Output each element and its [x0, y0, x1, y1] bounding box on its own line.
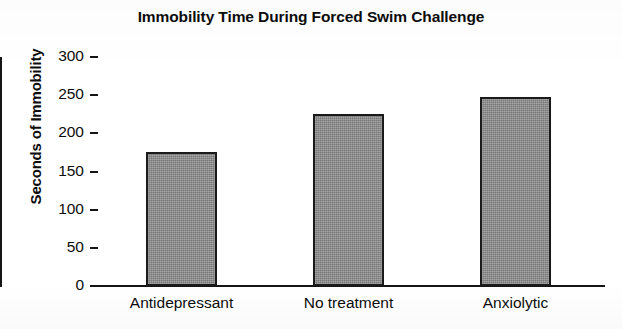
bar-chart-figure: Immobility Time During Forced Swim Chall… — [0, 0, 622, 329]
y-tick-label: 100 — [30, 201, 84, 217]
y-tick-label: 0 — [30, 277, 84, 293]
x-tick-label-antidepressant: Antidepressant — [92, 294, 272, 312]
y-tick-mark — [90, 209, 98, 211]
y-tick-label: 250 — [30, 86, 84, 102]
y-tick-mark — [90, 171, 98, 173]
x-tick-label-no-treatment: No treatment — [259, 294, 439, 312]
bar-no-treatment — [313, 114, 384, 286]
x-tick-label-anxiolytic: Anxiolytic — [426, 294, 606, 312]
y-tick-mark — [90, 285, 98, 287]
y-tick-mark — [90, 247, 98, 249]
y-tick-label: 150 — [30, 163, 84, 179]
bar-antidepressant — [146, 152, 217, 286]
plot-area — [98, 57, 605, 286]
y-tick-mark — [90, 94, 98, 96]
y-tick-label: 50 — [30, 239, 84, 255]
bar-anxiolytic — [480, 97, 551, 286]
y-axis-line — [0, 57, 2, 287]
y-tick-mark — [90, 56, 98, 58]
y-tick-label: 200 — [30, 124, 84, 140]
y-tick-label: 300 — [30, 48, 84, 64]
y-axis-ticks: 050100150200250300 — [0, 0, 98, 329]
y-tick-mark — [90, 132, 98, 134]
